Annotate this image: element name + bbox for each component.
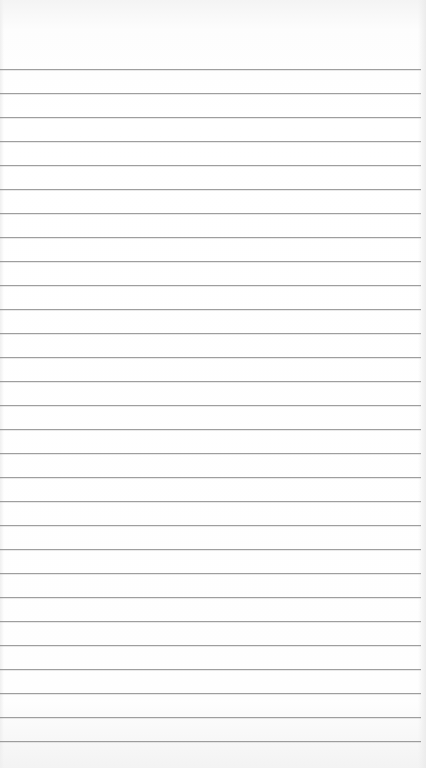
ruled-line xyxy=(0,669,421,670)
ruled-line xyxy=(0,333,421,334)
ruled-line xyxy=(0,501,421,502)
ruled-line xyxy=(0,141,421,142)
ruled-line xyxy=(0,237,421,238)
ruled-line xyxy=(0,405,421,406)
ruled-line xyxy=(0,453,421,454)
ruled-line xyxy=(0,645,421,646)
ruled-line xyxy=(0,69,421,70)
ruled-line xyxy=(0,117,421,118)
ruled-line xyxy=(0,213,421,214)
ruled-line xyxy=(0,357,421,358)
ruled-line xyxy=(0,597,421,598)
ruled-line xyxy=(0,93,421,94)
ruled-line xyxy=(0,573,421,574)
ruled-line xyxy=(0,165,421,166)
ruled-line xyxy=(0,717,421,718)
ruled-line xyxy=(0,477,421,478)
lined-paper-sheet xyxy=(0,0,426,768)
ruled-line xyxy=(0,261,421,262)
ruled-line xyxy=(0,693,421,694)
ruled-line xyxy=(0,309,421,310)
ruled-line xyxy=(0,549,421,550)
ruled-line xyxy=(0,285,421,286)
ruled-line xyxy=(0,429,421,430)
ruled-line xyxy=(0,741,421,742)
ruled-line xyxy=(0,621,421,622)
paper-left-edge-shadow xyxy=(0,0,4,768)
paper-right-edge-shadow xyxy=(418,0,426,768)
ruled-line xyxy=(0,189,421,190)
ruled-line xyxy=(0,381,421,382)
ruled-line xyxy=(0,525,421,526)
